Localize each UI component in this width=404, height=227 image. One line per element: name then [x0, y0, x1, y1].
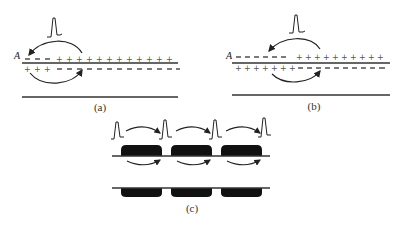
action-potential-spike-icon: [289, 15, 305, 33]
spike-icon: [258, 118, 271, 137]
svg-text:+: +: [341, 53, 348, 62]
svg-text:+: +: [116, 55, 123, 64]
svg-text:+: +: [305, 53, 312, 62]
svg-text:+: +: [126, 55, 133, 64]
svg-text:+: +: [262, 64, 269, 73]
action-potential-spike-icon: [47, 18, 62, 37]
svg-text:+: +: [106, 55, 113, 64]
charges-plus-a: ++++ ++++ ++++ +++: [24, 55, 173, 74]
svg-text:+: +: [323, 53, 330, 62]
svg-text:+: +: [235, 64, 242, 73]
myelin-sheath-bottom-2: [171, 188, 212, 197]
svg-text:+: +: [350, 53, 357, 62]
point-label-a: A: [14, 50, 20, 61]
spike-icon: [159, 120, 172, 139]
myelin-sheath-bottom-1: [121, 188, 162, 197]
spike-icon: [111, 122, 124, 139]
saltatory-arrows-lower: [127, 160, 260, 165]
current-arrow-upper: [269, 39, 320, 51]
nerve-conduction-diagram: ++++ ++++ ++++ +++ ++++ ++++ ++ ++++ +++: [0, 0, 404, 227]
svg-text:+: +: [280, 64, 287, 73]
svg-text:+: +: [34, 65, 41, 74]
point-label-b: A: [226, 50, 232, 61]
svg-text:+: +: [332, 53, 339, 62]
spike-icon: [209, 120, 222, 139]
svg-text:+: +: [289, 64, 296, 73]
saltatory-arrows-upper: [126, 127, 260, 133]
current-arrow-upper: [29, 41, 82, 55]
myelin-sheath-bottom-3: [221, 188, 262, 197]
svg-text:+: +: [368, 53, 375, 62]
svg-text:+: +: [86, 55, 93, 64]
svg-text:+: +: [271, 64, 278, 73]
svg-text:+: +: [156, 55, 163, 64]
caption-b: (b): [308, 100, 321, 112]
svg-text:+: +: [244, 64, 251, 73]
svg-text:+: +: [377, 53, 384, 62]
panel-b: ++++ ++++ ++ ++++ +++: [232, 15, 390, 95]
svg-text:+: +: [136, 55, 143, 64]
svg-text:+: +: [253, 64, 260, 73]
action-potential-spikes: [111, 118, 271, 139]
caption-c: (c): [186, 202, 198, 214]
svg-text:+: +: [66, 55, 73, 64]
svg-text:+: +: [359, 53, 366, 62]
svg-text:+: +: [166, 55, 173, 64]
svg-text:+: +: [44, 65, 51, 74]
svg-text:+: +: [296, 53, 303, 62]
panel-c: [111, 118, 271, 197]
caption-a: (a): [94, 101, 106, 113]
svg-text:+: +: [96, 55, 103, 64]
myelin-sheath-top-1: [121, 145, 162, 156]
svg-text:+: +: [24, 65, 31, 74]
svg-text:+: +: [314, 53, 321, 62]
myelin-sheath-top-3: [221, 145, 262, 156]
myelin-sheath-top-2: [171, 145, 212, 156]
svg-text:+: +: [76, 55, 83, 64]
panel-a: ++++ ++++ ++++ +++: [22, 18, 180, 97]
svg-text:+: +: [56, 55, 63, 64]
svg-text:+: +: [146, 55, 153, 64]
